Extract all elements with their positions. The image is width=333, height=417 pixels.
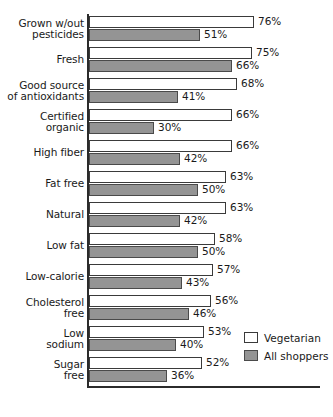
bar-rect [89,370,167,382]
bar-group: Natural63%42% [0,202,333,228]
bar-value-label: 36% [171,369,194,382]
bar-rect [89,308,189,320]
bar-value-label: 41% [182,90,205,103]
x-axis-line [87,386,320,388]
bar-value-label: 53% [208,325,231,338]
bar-group: Low-calorie57%43% [0,264,333,290]
bar-group: High fiber66%42% [0,140,333,166]
bar-vegetarian: 52% [89,357,202,369]
bar-rect [89,171,226,183]
category-label: Low fat [0,240,84,252]
legend-label-all-shoppers: All shoppers [264,350,328,362]
bar-value-label: 50% [202,183,225,196]
legend-swatch-vegetarian [244,332,258,343]
bar-value-label: 46% [193,307,216,320]
bar-all-shoppers: 46% [89,308,189,320]
bar-value-label: 57% [217,263,240,276]
bar-all-shoppers: 40% [89,339,176,351]
category-label-line: free [0,308,84,320]
bar-value-label: 40% [180,338,203,351]
bar-vegetarian: 66% [89,109,232,121]
bar-rect [89,277,182,289]
bar-value-label: 43% [186,276,209,289]
bar-rect [89,339,176,351]
bar-vegetarian: 58% [89,233,215,245]
bar-value-label: 75% [256,46,279,59]
bar-rect [89,47,252,59]
bar-rect [89,29,200,41]
bar-all-shoppers: 30% [89,122,154,134]
bar-vegetarian: 63% [89,171,226,183]
bar-rect [89,357,202,369]
category-label: Natural [0,209,84,221]
bar-rect [89,60,232,72]
category-label-line: Natural [0,209,84,221]
category-label: Fresh [0,54,84,66]
category-label-line: Low fat [0,240,84,252]
legend-item-all-shoppers: All shoppers [244,348,328,363]
bar-rect [89,233,215,245]
category-label: Low-calorie [0,271,84,283]
bar-value-label: 66% [236,59,259,72]
bar-vegetarian: 66% [89,140,232,152]
bar-value-label: 52% [206,356,229,369]
category-label: Good sourceof antioxidants [0,80,84,103]
bar-value-label: 51% [204,28,227,41]
category-label: Sugarfree [0,359,84,382]
category-label: Fat free [0,178,84,190]
category-label-line: pesticides [0,29,84,41]
bar-vegetarian: 76% [89,16,254,28]
bar-group: Grown w/outpesticides76%51% [0,16,333,42]
category-label-line: free [0,370,84,382]
bar-chart: Grown w/outpesticides76%51%Fresh75%66%Go… [0,0,333,417]
bar-vegetarian: 68% [89,78,237,90]
bar-rect [89,246,198,258]
bar-all-shoppers: 42% [89,215,180,227]
legend-item-vegetarian: Vegetarian [244,330,328,345]
bar-vegetarian: 53% [89,326,204,338]
category-label-line: organic [0,122,84,134]
bar-rect [89,91,178,103]
bar-group: Good sourceof antioxidants68%41% [0,78,333,104]
bar-value-label: 50% [202,245,225,258]
bar-group: Fresh75%66% [0,47,333,73]
category-label-line: Fat free [0,178,84,190]
legend-label-vegetarian: Vegetarian [264,332,321,344]
bar-rect [89,264,213,276]
bar-rect [89,140,232,152]
bar-group: Fat free63%50% [0,171,333,197]
bar-vegetarian: 56% [89,295,211,307]
bar-value-label: 76% [258,15,281,28]
category-label-line: sodium [0,339,84,351]
bar-rect [89,16,254,28]
bar-vegetarian: 57% [89,264,213,276]
bar-value-label: 68% [241,77,264,90]
bar-rect [89,122,154,134]
category-label: High fiber [0,147,84,159]
bar-value-label: 42% [184,214,207,227]
bar-all-shoppers: 50% [89,184,198,196]
bar-rect [89,153,180,165]
bar-rect [89,109,232,121]
bar-all-shoppers: 36% [89,370,167,382]
bar-value-label: 66% [236,108,259,121]
bar-vegetarian: 75% [89,47,252,59]
bar-all-shoppers: 51% [89,29,200,41]
category-label: Cholesterolfree [0,297,84,320]
bar-value-label: 58% [219,232,242,245]
bar-value-label: 63% [230,170,253,183]
category-label: Lowsodium [0,328,84,351]
bar-rect [89,215,180,227]
chart-legend: Vegetarian All shoppers [244,330,328,366]
category-label-line: Low-calorie [0,271,84,283]
category-label-line: of antioxidants [0,91,84,103]
bar-value-label: 63% [230,201,253,214]
bar-rect [89,295,211,307]
bar-all-shoppers: 50% [89,246,198,258]
legend-swatch-all-shoppers [244,350,258,361]
bar-rect [89,326,204,338]
category-label-line: High fiber [0,147,84,159]
bar-value-label: 56% [215,294,238,307]
bar-value-label: 30% [158,121,181,134]
bar-group: Certifiedorganic66%30% [0,109,333,135]
